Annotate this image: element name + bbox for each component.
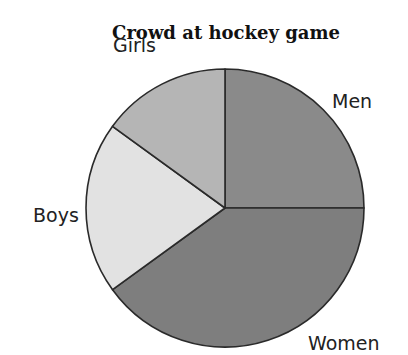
label-women: Women <box>308 332 380 354</box>
label-men: Men <box>332 90 372 112</box>
label-girls: Girls <box>113 34 156 56</box>
pie-chart: Crowd at hockey game Girls Men Boys Wome… <box>0 0 408 355</box>
label-boys: Boys <box>33 204 79 226</box>
pie-slices <box>86 69 364 347</box>
